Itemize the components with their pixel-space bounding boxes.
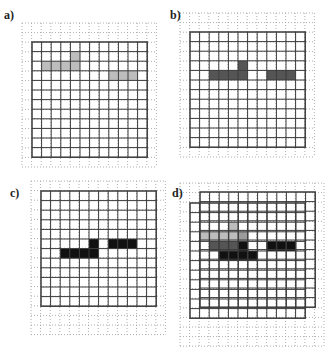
filled-cell (118, 239, 128, 249)
filled-cell (79, 249, 89, 259)
filled-cell (51, 61, 61, 71)
grid-frame-1-0 (190, 32, 305, 147)
filled-cell (238, 61, 248, 71)
panel-label-c: c) (10, 186, 19, 201)
filled-cell (209, 70, 219, 80)
filled-cell (238, 70, 248, 80)
dotted-lattice-3 (180, 183, 324, 346)
grid-frame-3-1 (190, 203, 305, 318)
filled-cell (286, 70, 296, 80)
panel-label-a: a) (4, 8, 14, 23)
filled-cell (70, 61, 80, 71)
filled-cell (219, 70, 229, 80)
filled-cell (127, 239, 137, 249)
filled-cell (228, 70, 238, 80)
grid-figure (0, 0, 335, 354)
filled-cell (128, 71, 138, 81)
filled-cell (70, 52, 80, 62)
filled-cell (89, 239, 99, 249)
filled-cell (70, 249, 80, 259)
filled-cell (60, 249, 70, 259)
filled-cell (109, 71, 119, 81)
filled-cell (108, 239, 118, 249)
filled-cell (118, 71, 128, 81)
grid-frame-2-0 (41, 191, 156, 306)
filled-cell (267, 70, 277, 80)
filled-cell (42, 61, 52, 71)
panel-label-b: b) (170, 8, 181, 23)
panel-label-d: d) (172, 186, 183, 201)
grid-frame-0-0 (32, 42, 147, 157)
filled-cell (61, 61, 71, 71)
filled-cell (276, 70, 286, 80)
filled-cell (89, 249, 99, 259)
